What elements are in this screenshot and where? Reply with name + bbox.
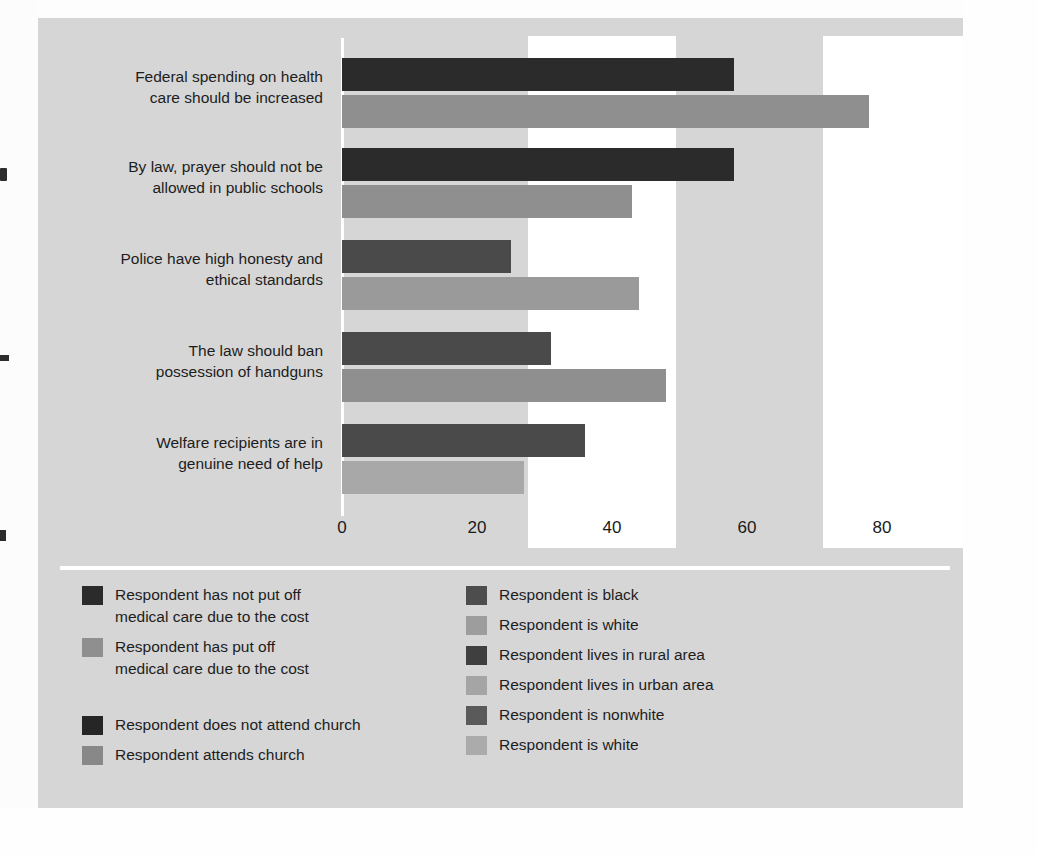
category-label-line2: care should be increased bbox=[63, 87, 323, 108]
chart-figure-panel: Federal spending on healthcare should be… bbox=[38, 18, 963, 808]
category-label: Welfare recipients are ingenuine need of… bbox=[63, 432, 323, 474]
chart-legend: Respondent has not put off medical care … bbox=[38, 584, 963, 799]
legend-label: Respondent does not attend church bbox=[115, 714, 361, 736]
legend-swatch-icon bbox=[466, 736, 487, 755]
page-margin-top bbox=[0, 0, 1037, 18]
legend-item[interactable]: Respondent lives in rural area bbox=[466, 644, 705, 666]
category-label: Federal spending on healthcare should be… bbox=[63, 66, 323, 108]
plot-area: Federal spending on healthcare should be… bbox=[38, 18, 963, 538]
legend-label: Respondent lives in urban area bbox=[499, 674, 714, 696]
legend-swatch-icon bbox=[82, 716, 103, 735]
category-label: By law, prayer should not beallowed in p… bbox=[63, 156, 323, 198]
x-tick-label: 40 bbox=[603, 518, 622, 538]
category-label-line1: By law, prayer should not be bbox=[63, 156, 323, 177]
legend-swatch-icon bbox=[466, 676, 487, 695]
legend-swatch-icon bbox=[466, 616, 487, 635]
legend-item[interactable]: Respondent attends church bbox=[82, 744, 305, 766]
legend-swatch-icon bbox=[466, 706, 487, 725]
page-margin-right bbox=[963, 0, 1037, 855]
legend-item[interactable]: Respondent is white bbox=[466, 614, 639, 636]
legend-label: Respondent is nonwhite bbox=[499, 704, 664, 726]
legend-label: Respondent is white bbox=[499, 614, 639, 636]
legend-swatch-icon bbox=[82, 586, 103, 605]
legend-label: Respondent lives in rural area bbox=[499, 644, 705, 666]
category-label-line2: allowed in public schools bbox=[63, 177, 323, 198]
x-tick-label: 60 bbox=[738, 518, 757, 538]
bar-light bbox=[342, 369, 666, 402]
bar-light bbox=[342, 461, 524, 494]
category-label-line1: Welfare recipients are in bbox=[63, 432, 323, 453]
legend-swatch-icon bbox=[82, 746, 103, 765]
legend-item[interactable]: Respondent is white bbox=[466, 734, 639, 756]
x-tick-label: 80 bbox=[873, 518, 892, 538]
legend-label: Respondent has put off medical care due … bbox=[115, 636, 309, 679]
x-tick-label: 0 bbox=[337, 518, 346, 538]
bar-light bbox=[342, 277, 639, 310]
bar-dark bbox=[342, 58, 734, 91]
legend-swatch-icon bbox=[466, 646, 487, 665]
page-edge-mark-top bbox=[0, 168, 7, 181]
legend-item[interactable]: Respondent is black bbox=[466, 584, 639, 606]
legend-swatch-icon bbox=[466, 586, 487, 605]
legend-item[interactable]: Respondent is nonwhite bbox=[466, 704, 664, 726]
scanned-page: Federal spending on healthcare should be… bbox=[0, 0, 1037, 855]
legend-swatch-icon bbox=[82, 638, 103, 657]
legend-item[interactable]: Respondent has not put off medical care … bbox=[82, 584, 309, 627]
bar-dark bbox=[342, 424, 585, 457]
legend-label: Respondent is white bbox=[499, 734, 639, 756]
category-label-line1: Police have high honesty and bbox=[63, 248, 323, 269]
category-label-line1: The law should ban bbox=[63, 340, 323, 361]
x-axis: 020406080 bbox=[38, 518, 963, 550]
page-edge-mark-middle bbox=[0, 355, 9, 361]
category-label-line2: ethical standards bbox=[63, 269, 323, 290]
legend-item[interactable]: Respondent has put off medical care due … bbox=[82, 636, 309, 679]
bar-dark bbox=[342, 148, 734, 181]
legend-label: Respondent attends church bbox=[115, 744, 305, 766]
legend-item[interactable]: Respondent does not attend church bbox=[82, 714, 361, 736]
category-label-line2: possession of handguns bbox=[63, 361, 323, 382]
category-label: The law should banpossession of handguns bbox=[63, 340, 323, 382]
category-label-line1: Federal spending on health bbox=[63, 66, 323, 87]
legend-label: Respondent is black bbox=[499, 584, 639, 606]
legend-item[interactable]: Respondent lives in urban area bbox=[466, 674, 714, 696]
legend-label: Respondent has not put off medical care … bbox=[115, 584, 309, 627]
bar-dark bbox=[342, 240, 511, 273]
category-label: Police have high honesty andethical stan… bbox=[63, 248, 323, 290]
x-tick-label: 20 bbox=[468, 518, 487, 538]
page-edge-mark-lower bbox=[0, 530, 6, 541]
bar-light bbox=[342, 185, 632, 218]
page-margin-bottom bbox=[0, 808, 1037, 855]
page-margin-left bbox=[0, 0, 38, 855]
bar-light bbox=[342, 95, 869, 128]
category-label-line2: genuine need of help bbox=[63, 453, 323, 474]
bar-dark bbox=[342, 332, 551, 365]
legend-separator-line bbox=[60, 566, 950, 570]
